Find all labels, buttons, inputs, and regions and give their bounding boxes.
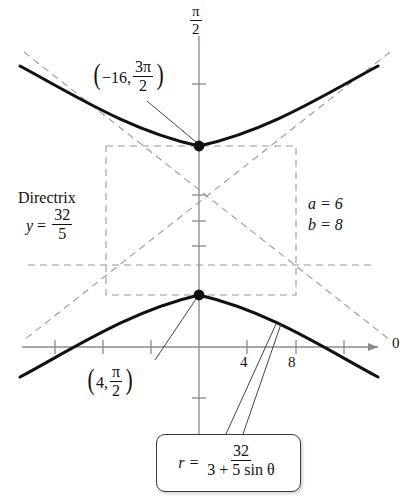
lower-label-theta-fraction: π 2 xyxy=(110,364,122,399)
equation-fraction: 32 3 + 5 sin θ xyxy=(205,443,276,478)
directrix-annotation: Directrix y = 32 5 xyxy=(18,190,76,245)
polar-axis-arrowhead xyxy=(368,343,378,351)
parameter-a-text: a = 6 xyxy=(308,196,343,213)
vertex-point-upper xyxy=(194,141,205,152)
upper-label-theta-fraction: 3π 2 xyxy=(133,59,153,94)
tick-label-8: 8 xyxy=(288,355,296,371)
leader-equation-left xyxy=(226,324,276,434)
leader-lines xyxy=(147,101,281,434)
leader-upper-point xyxy=(147,101,196,142)
upper-label-theta-denominator: 2 xyxy=(137,77,149,94)
polar-hyperbola-figure: π 2 0 4 8 (−16, 3π 2 ) (4, π 2 ) Directr… xyxy=(0,0,413,503)
upper-point-label: (−16, 3π 2 ) xyxy=(92,58,165,97)
equation-lhs: r = xyxy=(178,454,199,472)
pi-over-two-numerator: π xyxy=(190,4,202,21)
lower-label-theta-denominator: 2 xyxy=(110,382,122,399)
equation-numerator: 32 xyxy=(231,443,251,461)
equation-content: r = 32 3 + 5 sin θ xyxy=(178,446,278,481)
equation-callout-box: r = 32 3 + 5 sin θ xyxy=(156,434,301,492)
upper-label-theta-numerator: 3π xyxy=(133,59,153,77)
leader-lower-point xyxy=(155,299,196,360)
equation-denominator: 3 + 5 sin θ xyxy=(205,461,276,478)
directrix-equation: y = 32 5 xyxy=(18,210,76,245)
upper-label-close-paren: ) xyxy=(157,59,164,89)
upper-label-r-value: −16 xyxy=(102,69,127,86)
polar-axis-label: 0 xyxy=(392,336,400,352)
lower-label-theta-numerator: π xyxy=(110,364,122,382)
upper-label-comma: , xyxy=(127,69,131,86)
directrix-y-symbol: y xyxy=(26,217,33,234)
vertical-axis-label: π 2 xyxy=(188,6,204,39)
directrix-numerator: 32 xyxy=(52,207,72,225)
pi-over-two-denominator: 2 xyxy=(190,21,202,37)
graph-canvas xyxy=(0,0,413,503)
lower-point-label: (4, π 2 ) xyxy=(86,363,134,402)
directrix-denominator: 5 xyxy=(56,225,68,242)
conic-parameters-annotation: a = 6 b = 8 xyxy=(308,196,343,234)
tick-label-4: 4 xyxy=(240,355,248,371)
pi-over-two-fraction: π 2 xyxy=(190,4,202,37)
directrix-equals: = xyxy=(37,217,46,234)
directrix-fraction: 32 5 xyxy=(52,207,72,242)
lower-label-r-value: 4 xyxy=(96,374,104,391)
lower-label-close-paren: ) xyxy=(125,364,132,394)
lower-label-open-paren: ( xyxy=(87,364,94,394)
upper-label-open-paren: ( xyxy=(93,59,100,89)
directrix-word: Directrix xyxy=(18,190,76,207)
vertical-axis xyxy=(192,36,206,446)
lower-label-comma: , xyxy=(104,374,108,391)
parameter-b-text: b = 8 xyxy=(308,217,343,234)
leader-equation-right xyxy=(243,324,281,434)
vertex-point-lower xyxy=(194,290,205,301)
